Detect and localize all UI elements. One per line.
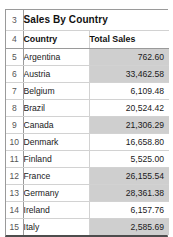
row-header-15[interactable]: 15 bbox=[6, 219, 23, 229]
table-row: 12France26,155.54 bbox=[6, 168, 169, 185]
cell-total-sales[interactable]: 2,585.69 bbox=[89, 219, 169, 229]
spreadsheet-range: 3 Sales By Country 4 Country Total Sales… bbox=[5, 9, 168, 228]
cell-country[interactable]: Canada bbox=[23, 117, 89, 134]
row-header-10[interactable]: 10 bbox=[6, 134, 23, 151]
cell-total-sales[interactable]: 20,524.42 bbox=[89, 100, 169, 117]
cell-total-sales[interactable]: 6,157.76 bbox=[89, 202, 169, 219]
row-header-12[interactable]: 12 bbox=[6, 168, 23, 185]
table-row: 6Austria33,462.58 bbox=[6, 66, 169, 83]
table-row: 8Brazil20,524.42 bbox=[6, 100, 169, 117]
cell-total-sales[interactable]: 762.60 bbox=[89, 49, 169, 66]
column-header-total-sales[interactable]: Total Sales bbox=[89, 31, 169, 49]
table-row: 11Finland5,525.00 bbox=[6, 151, 169, 168]
row-header-3[interactable]: 3 bbox=[6, 10, 23, 31]
table-row: 14Ireland6,157.76 bbox=[6, 202, 169, 219]
cell-country[interactable]: Ireland bbox=[23, 202, 89, 219]
column-header-country[interactable]: Country bbox=[23, 31, 89, 49]
cell-country[interactable]: Finland bbox=[23, 151, 89, 168]
sheet-title-cell[interactable]: Sales By Country bbox=[23, 10, 169, 31]
cell-total-sales[interactable]: 6,109.48 bbox=[89, 83, 169, 100]
row-header-13[interactable]: 13 bbox=[6, 185, 23, 202]
row-header-7[interactable]: 7 bbox=[6, 83, 23, 100]
sales-by-country-table: 3 Sales By Country 4 Country Total Sales… bbox=[6, 10, 169, 228]
row-header-4[interactable]: 4 bbox=[6, 31, 23, 49]
row-header-11[interactable]: 11 bbox=[6, 151, 23, 168]
row-header-14[interactable]: 14 bbox=[6, 202, 23, 219]
table-row: 5Argentina762.60 bbox=[6, 49, 169, 66]
cell-total-sales[interactable]: 5,525.00 bbox=[89, 151, 169, 168]
cell-country[interactable]: Argentina bbox=[23, 49, 89, 66]
cell-total-sales[interactable]: 28,361.38 bbox=[89, 185, 169, 202]
table-row: 9Canada21,306.29 bbox=[6, 117, 169, 134]
cell-country[interactable]: Austria bbox=[23, 66, 89, 83]
cell-country[interactable]: Denmark bbox=[23, 134, 89, 151]
cell-country[interactable]: France bbox=[23, 168, 89, 185]
cell-total-sales[interactable]: 16,658.80 bbox=[89, 134, 169, 151]
row-header-6[interactable]: 6 bbox=[6, 66, 23, 83]
cell-country[interactable]: Italy bbox=[23, 219, 89, 229]
cell-total-sales[interactable]: 33,462.58 bbox=[89, 66, 169, 83]
row-header-9[interactable]: 9 bbox=[6, 117, 23, 134]
table-row: 10Denmark16,658.80 bbox=[6, 134, 169, 151]
column-header-row: 4 Country Total Sales bbox=[6, 31, 169, 49]
row-header-5[interactable]: 5 bbox=[6, 49, 23, 66]
title-row: 3 Sales By Country bbox=[6, 10, 169, 31]
cell-country[interactable]: Brazil bbox=[23, 100, 89, 117]
cell-total-sales[interactable]: 26,155.54 bbox=[89, 168, 169, 185]
cell-total-sales[interactable]: 21,306.29 bbox=[89, 117, 169, 134]
row-header-8[interactable]: 8 bbox=[6, 100, 23, 117]
table-body: 3 Sales By Country 4 Country Total Sales… bbox=[6, 10, 169, 228]
cell-country[interactable]: Germany bbox=[23, 185, 89, 202]
cell-country[interactable]: Belgium bbox=[23, 83, 89, 100]
table-row: 13Germany28,361.38 bbox=[6, 185, 169, 202]
table-row: 15Italy2,585.69 bbox=[6, 219, 169, 229]
table-row: 7Belgium6,109.48 bbox=[6, 83, 169, 100]
